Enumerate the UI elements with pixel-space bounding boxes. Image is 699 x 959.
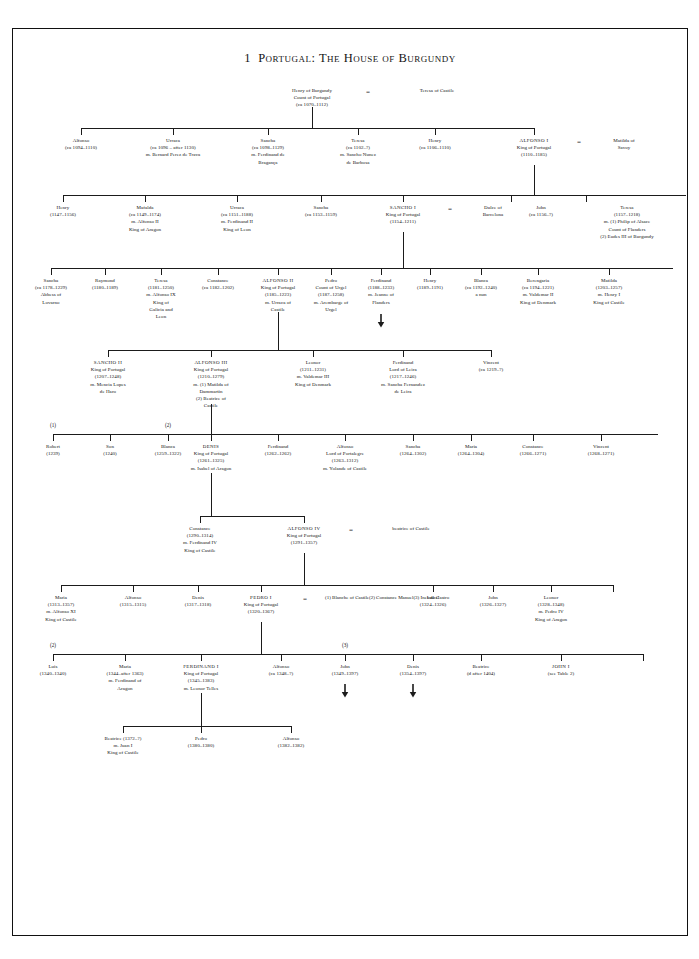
- person-detail-line: (1189–1191): [417, 284, 443, 291]
- connector-vertical: [345, 434, 346, 441]
- person-detail-line: Dammartin: [193, 388, 228, 395]
- person-name: Maria: [458, 443, 484, 450]
- person-node: Constance(1266–1271): [520, 443, 546, 457]
- person-name: Beatrice: [467, 663, 495, 670]
- person-detail-line: (1240): [103, 450, 117, 457]
- person-node: Henry(1189–1191): [417, 277, 443, 291]
- person-detail-line: (1261–1325): [191, 457, 232, 464]
- connector-vertical: [481, 654, 482, 661]
- person-name: Teresa: [340, 137, 376, 144]
- spouse-detail-line: (1) Blanche of Castile: [325, 595, 369, 600]
- connector-vertical: [278, 312, 279, 350]
- connector-vertical: [312, 107, 313, 128]
- spouse-order-marker: (3): [342, 642, 348, 648]
- person-detail-line: m. Ferdinand II: [221, 218, 253, 225]
- person-detail-line: Lord of Portalegre: [323, 450, 367, 457]
- connector-vertical: [403, 232, 404, 268]
- person-detail-line: (1264–1302): [400, 450, 426, 457]
- connector-vertical: [110, 434, 111, 441]
- person-name: John: [332, 663, 358, 670]
- connector-vertical: [261, 622, 262, 654]
- person-node: Henry(ca 1106–1110): [419, 137, 451, 151]
- person-name: Henry: [417, 277, 443, 284]
- person-detail-line: (1180–1189): [92, 284, 118, 291]
- connector-vertical: [491, 350, 492, 357]
- person-detail-line: (1380–1380): [188, 742, 214, 749]
- page-root: 1 Portugal: The House of Burgundy Henry …: [0, 0, 699, 959]
- person-detail-line: Lovarno: [35, 299, 67, 306]
- connector-vertical: [511, 195, 512, 202]
- spouse-order-marker: (1): [50, 422, 56, 428]
- connector-vertical: [313, 350, 314, 357]
- connector-vertical: [125, 654, 126, 661]
- person-detail-line: Bragança: [251, 159, 284, 166]
- connector-horizontal: [108, 350, 491, 351]
- person-name: Constance: [520, 443, 546, 450]
- person-detail-line: (1344–after 1363): [106, 670, 143, 677]
- connector-vertical: [345, 654, 346, 661]
- person-detail-line: m. Isabel of Aragon: [191, 465, 232, 472]
- person-node: Robert(1239): [46, 443, 60, 457]
- person-detail-line: (ca 1194–1221): [520, 284, 556, 291]
- connector-vertical: [200, 516, 201, 523]
- person-detail-line: King of Portugal: [261, 284, 295, 291]
- person-name: Teresa: [600, 204, 653, 211]
- connector-vertical: [551, 585, 552, 592]
- person-node: Ferdinand(1188–1233)m. Jeanne ofFlanders: [368, 277, 394, 306]
- person-name: John: [529, 204, 553, 211]
- person-name: Ferdinand: [381, 359, 425, 366]
- person-detail-line: King of Portugal: [90, 366, 126, 373]
- person-name: Maria: [45, 594, 76, 601]
- person-detail-line: King of Portugal: [386, 211, 420, 218]
- person-name: Isabel: [420, 594, 446, 601]
- connector-horizontal: [61, 585, 613, 586]
- person-node: Constance(ca 1182–1202): [202, 277, 234, 291]
- person-detail-line: (1262–1262): [265, 450, 291, 457]
- person-name: Pedro: [314, 277, 349, 284]
- person-name: ALFONSO I: [517, 137, 551, 144]
- person-node: Blanca(1259–1322): [155, 443, 181, 457]
- connector-vertical: [533, 434, 534, 441]
- person-name: Leonor: [295, 359, 331, 366]
- connector-vertical: [538, 268, 539, 275]
- person-detail-line: Leon: [146, 313, 175, 320]
- person-node: FERDINAND IKing of Portugal(1345–1383)m.…: [183, 663, 219, 692]
- person-detail-line: (2) Beatrice of: [193, 395, 228, 402]
- person-detail-line: m. Bernard Perez de Trava: [146, 151, 201, 158]
- person-detail-line: m. Valdemar III: [295, 373, 331, 380]
- person-node: Sancha(ca 1153–1159): [305, 204, 337, 218]
- person-node: Pedro(1380–1380): [188, 735, 214, 749]
- person-name: Urraca: [146, 137, 201, 144]
- spouse-node: beatrice of Castile: [392, 525, 429, 532]
- spouse-node: Teresa of Castile: [420, 87, 454, 94]
- connector-vertical: [403, 350, 404, 357]
- connector-vertical: [534, 128, 535, 135]
- person-detail-line: de Barbosa: [340, 159, 376, 166]
- person-detail-line: m. Mencia Lopes: [90, 381, 126, 388]
- person-detail-line: (1203–1257): [593, 284, 624, 291]
- connector-vertical: [430, 268, 431, 275]
- person-node: ALFONSO IIIKing of Portugal(1210–1279)m.…: [193, 359, 228, 409]
- connector-vertical: [105, 268, 106, 275]
- person-node: Maria(1264–1304): [458, 443, 484, 457]
- connector-vertical: [481, 268, 482, 275]
- person-detail-line: (ca 1182–1202): [202, 284, 234, 291]
- person-detail-line: (1264–1304): [458, 450, 484, 457]
- person-detail-line: (1239): [46, 450, 60, 457]
- person-detail-line: (d after 1404): [467, 670, 495, 677]
- connector-vertical: [211, 404, 212, 434]
- person-detail-line: (1324–1326): [420, 601, 446, 608]
- person-name: Denis: [185, 594, 211, 601]
- person-detail-line: m. Alfonso XI: [45, 608, 76, 615]
- person-name: Henry: [419, 137, 451, 144]
- person-detail-line: de Leira: [381, 388, 425, 395]
- person-node: Beatrice(d after 1404): [467, 663, 495, 677]
- person-name: ALFONSO IV: [287, 525, 321, 532]
- person-name: Robert: [46, 443, 60, 450]
- person-detail-line: (1317–1318): [185, 601, 211, 608]
- person-detail-line: (1259–1322): [155, 450, 181, 457]
- person-name: Henry of Burgundy: [292, 87, 332, 94]
- person-name: Urraca: [221, 204, 253, 211]
- connector-vertical: [53, 654, 54, 661]
- marriage-symbol: =: [349, 527, 353, 534]
